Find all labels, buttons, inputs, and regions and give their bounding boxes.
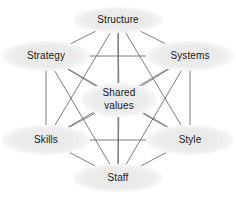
node-staff[interactable]: Staff [73,164,163,192]
node-strategy[interactable]: Strategy [2,41,90,71]
link-staff-to-skills [70,153,95,166]
link-skills-to-shared-values [69,113,95,127]
link-structure-to-strategy [71,31,96,43]
node-skills[interactable]: Skills [2,125,90,155]
diagram-canvas: StructureSystemsStyleStaffSkillsStrategy… [0,0,236,200]
node-label-shared-values: Shared [103,87,136,98]
link-staff-to-shared-values [118,117,119,164]
node-label-systems: Systems [170,50,209,61]
link-structure-to-shared-values [118,33,119,83]
node-label-style: Style [179,134,202,145]
node-style[interactable]: Style [146,125,234,155]
node-shared-values[interactable]: Sharedvalues [81,83,157,117]
link-style-to-staff [141,153,166,166]
node-structure[interactable]: Structure [73,7,163,33]
node-label-skills: Skills [34,134,58,145]
node-label-strategy: Strategy [27,50,65,61]
link-structure-to-systems [141,31,166,43]
link-strategy-to-shared-values [68,69,97,86]
link-systems-to-shared-values [141,69,169,86]
node-label-shared-values: values [104,100,134,111]
seven-s-diagram: StructureSystemsStyleStaffSkillsStrategy… [0,0,236,200]
node-label-structure: Structure [97,14,139,25]
node-systems[interactable]: Systems [146,41,234,71]
node-label-staff: Staff [108,172,129,183]
